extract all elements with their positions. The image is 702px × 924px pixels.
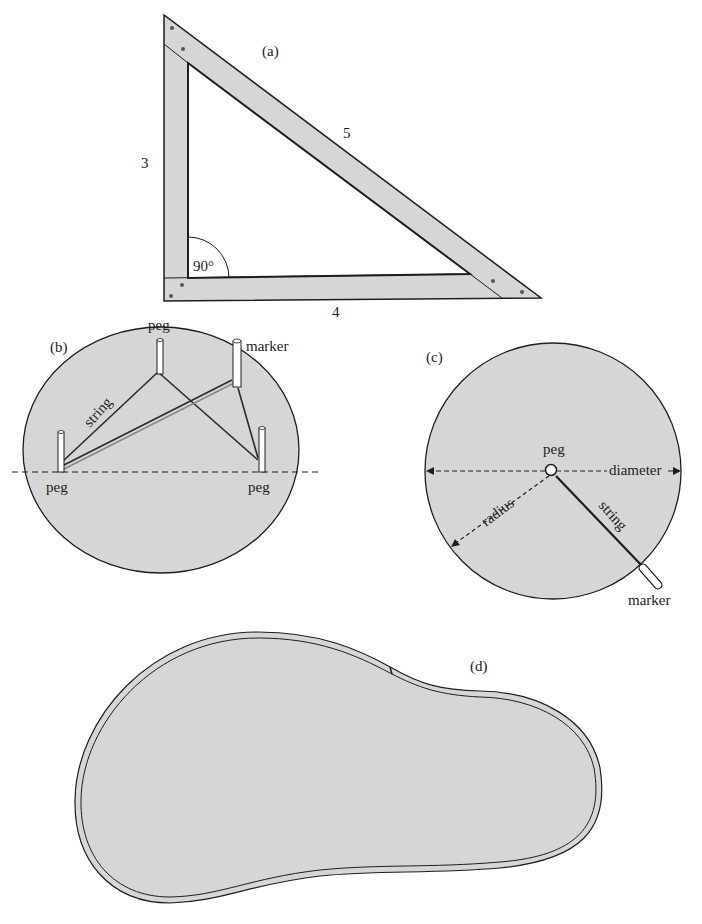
side-5-label: 5 <box>343 125 351 141</box>
peg-right-icon <box>259 427 265 473</box>
peg-top-icon <box>157 339 163 375</box>
marker-label: marker <box>628 592 670 608</box>
side-4-label: 4 <box>332 304 340 320</box>
rivet-icon <box>169 294 173 298</box>
panel-d-freeform: (d) <box>75 632 602 903</box>
panel-c-label: (c) <box>426 349 443 366</box>
rivet-icon <box>170 26 174 30</box>
peg-left-label: peg <box>46 479 68 495</box>
marker-icon <box>233 339 241 387</box>
marker-icon <box>643 568 658 585</box>
peg-icon <box>546 465 557 476</box>
panel-a-set-square: 90° (a) 3 5 4 <box>141 15 541 320</box>
panel-a-label: (a) <box>262 43 279 60</box>
marker-label: marker <box>246 338 288 354</box>
rivet-icon <box>181 47 185 51</box>
peg-top-label: peg <box>148 317 170 333</box>
rivet-icon <box>520 290 524 294</box>
peg-right-label: peg <box>248 479 270 495</box>
rivet-icon <box>491 279 495 283</box>
side-3-label: 3 <box>141 155 149 171</box>
rivet-icon <box>180 283 184 287</box>
panel-c-circle: (c) peg diameter radius string marker <box>425 343 681 608</box>
shape-inner <box>81 638 596 897</box>
diagram-canvas: 90° (a) 3 5 4 <box>0 0 702 924</box>
peg-left-icon <box>58 431 64 473</box>
peg-label: peg <box>543 441 565 457</box>
panel-d-label: (d) <box>470 658 488 675</box>
panel-b-ellipse: (b) peg marker peg peg string <box>12 317 322 573</box>
diameter-label: diameter <box>609 462 661 478</box>
angle-label: 90° <box>193 258 214 274</box>
panel-b-label: (b) <box>50 339 68 356</box>
set-square-inner <box>188 63 470 278</box>
